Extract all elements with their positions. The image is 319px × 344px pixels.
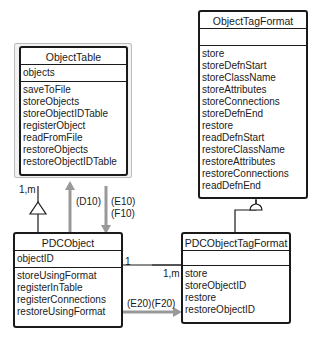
operation: restoreAttributes (202, 156, 304, 168)
operation: storeDefnStart (202, 60, 304, 72)
operation: storeObjectID (185, 280, 287, 292)
class-attributes: objects (21, 65, 126, 82)
operation: store (202, 48, 304, 60)
aggregation-multiplicity-label: 1,m (19, 184, 36, 195)
class-attributes (200, 29, 306, 46)
d10-label: (D10) (76, 196, 101, 207)
operation: storeObjectIDTable (23, 108, 124, 120)
operation: storeClassName (202, 72, 304, 84)
class-attributes: objectID (15, 251, 121, 268)
assoc-left-multiplicity-label: 1 (125, 256, 131, 267)
operation: restoreClassName (202, 144, 304, 156)
class-operations: store storeDefnStart storeClassName stor… (200, 46, 306, 194)
class-title: ObjectTable (21, 48, 126, 65)
operation: storeUsingFormat (17, 270, 119, 282)
operation: readDefnStart (202, 132, 304, 144)
operation: restoreObjectIDTable (23, 156, 124, 168)
operation: restoreUsingFormat (17, 306, 119, 318)
class-attributes (183, 251, 289, 266)
class-operations: store storeObjectID restore restoreObjec… (183, 266, 289, 318)
operation: storeConnections (202, 96, 304, 108)
operation: registerInTable (17, 282, 119, 294)
operation: storeObjects (23, 96, 124, 108)
operation: restoreConnections (202, 168, 304, 180)
semicircle-icon (250, 204, 262, 210)
operation: readDefnEnd (202, 180, 304, 192)
operation: restoreObjects (23, 144, 124, 156)
e20f20-label: (E20)(F20) (127, 298, 175, 309)
class-object-table[interactable]: ObjectTable objects saveToFile storeObje… (19, 46, 128, 176)
class-operations: storeUsingFormat registerInTable registe… (15, 268, 121, 320)
operation: restore (202, 120, 304, 132)
aggregation-triangle-icon (30, 202, 46, 214)
operation: store (185, 268, 287, 280)
class-title: PDCObjectTagFormat (183, 234, 289, 251)
operation: registerConnections (17, 294, 119, 306)
class-pdc-object-tag-format[interactable]: PDCObjectTagFormat store storeObjectID r… (181, 232, 291, 324)
class-operations: saveToFile storeObjects storeObjectIDTab… (21, 82, 126, 170)
operation: restoreObjectID (185, 304, 287, 316)
operation: registerObject (23, 120, 124, 132)
class-title: ObjectTagFormat (200, 12, 306, 29)
operation: saveToFile (23, 84, 124, 96)
class-title: PDCObject (15, 234, 121, 251)
class-object-tag-format[interactable]: ObjectTagFormat store storeDefnStart sto… (198, 10, 308, 199)
operation: readFromFile (23, 132, 124, 144)
e10-label: (E10) (111, 196, 135, 207)
class-pdc-object[interactable]: PDCObject objectID storeUsingFormat regi… (13, 232, 123, 328)
attribute: objects (23, 67, 124, 79)
f10-label: (F10) (111, 208, 135, 219)
operation: restore (185, 292, 287, 304)
assoc-right-multiplicity-label: 1,m (163, 268, 180, 279)
attribute: objectID (17, 253, 119, 265)
operation: storeDefnEnd (202, 108, 304, 120)
operation: storeAttributes (202, 84, 304, 96)
